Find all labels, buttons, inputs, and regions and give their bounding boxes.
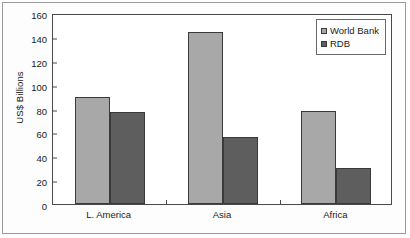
bar-l-america-rdb [110, 112, 145, 204]
x-axis-label-l-america: L. America [86, 209, 131, 220]
y-tick-mark [53, 182, 57, 183]
legend-label-world-bank: World Bank [330, 25, 379, 36]
legend-swatch-world-bank-icon [321, 28, 327, 34]
y-tick-label: 100 [1, 81, 53, 92]
y-tick-mark [53, 38, 57, 39]
chart-legend: World Bank RDB [316, 19, 386, 55]
bar-l-america-world-bank [75, 97, 110, 204]
legend-item-rdb: RDB [321, 37, 379, 50]
x-axis-label-africa: Africa [323, 209, 347, 220]
legend-label-rdb: RDB [330, 38, 350, 49]
y-tick-mark [53, 158, 57, 159]
y-tick-label: 0 [1, 201, 53, 212]
bar-asia-world-bank [188, 32, 223, 204]
y-tick-label: 140 [1, 33, 53, 44]
legend-item-world-bank: World Bank [321, 24, 379, 37]
y-tick-mark [53, 62, 57, 63]
y-tick-label: 60 [1, 129, 53, 140]
y-tick-label: 120 [1, 57, 53, 68]
y-tick-mark [53, 134, 57, 135]
y-tick-label: 40 [1, 153, 53, 164]
x-tick-mark [166, 200, 167, 204]
bar-chart-figure: US$ Billions 020406080100120140160 L. Am… [0, 0, 410, 238]
y-tick-label: 160 [1, 10, 53, 21]
y-tick-label: 20 [1, 177, 53, 188]
x-axis-label-asia: Asia [213, 209, 231, 220]
y-tick-mark [53, 86, 57, 87]
bar-asia-rdb [223, 137, 258, 204]
legend-swatch-rdb-icon [321, 41, 327, 47]
y-tick-mark [53, 110, 57, 111]
bar-africa-rdb [336, 168, 371, 204]
bar-africa-world-bank [301, 111, 336, 204]
y-tick-label: 80 [1, 105, 53, 116]
x-tick-mark [280, 200, 281, 204]
